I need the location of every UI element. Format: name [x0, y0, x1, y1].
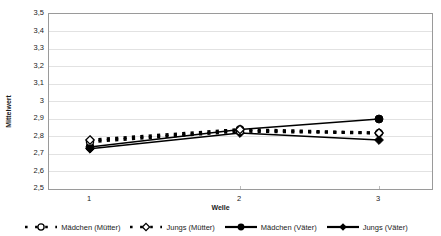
- plot-area: [48, 13, 433, 190]
- x-axis-tick-label: 1: [74, 194, 104, 203]
- chart-legend: Mädchen (Mütter)Jungs (Mütter)Mädchen (V…: [0, 219, 441, 235]
- legend-key: [326, 222, 360, 232]
- legend-item[interactable]: Mädchen (Väter): [224, 222, 326, 232]
- legend-item[interactable]: Mädchen (Mütter): [24, 222, 129, 232]
- y-axis-tick-label: 3: [10, 97, 44, 105]
- y-axis-tick-label: 3,3: [10, 44, 44, 52]
- y-axis-tick-label: 3,5: [10, 9, 44, 17]
- chart-container: Mittelwert 3,53,43,33,23,132,92,82,72,62…: [0, 0, 441, 236]
- legend-label: Jungs (Mütter): [166, 223, 214, 232]
- data-point-marker: [375, 115, 383, 123]
- legend-key: [129, 222, 163, 232]
- x-axis-tick-label: 2: [224, 194, 254, 203]
- series-2: [86, 125, 383, 144]
- series-line: [90, 133, 379, 149]
- legend-key: [24, 222, 58, 232]
- legend-item[interactable]: Jungs (Mütter): [129, 222, 223, 232]
- legend-item[interactable]: Jungs (Väter): [326, 222, 417, 232]
- x-axis-title: Welle: [0, 204, 441, 211]
- y-axis-tick-label: 2,7: [10, 149, 44, 157]
- y-axis-tick-label: 3,2: [10, 62, 44, 70]
- legend-label: Mädchen (Väter): [261, 223, 317, 232]
- x-axis-tick-label: 3: [363, 194, 393, 203]
- plot-svg: [49, 14, 432, 189]
- y-axis-tick-label: 2,5: [10, 184, 44, 192]
- legend-label: Jungs (Väter): [363, 223, 408, 232]
- legend-key: [224, 222, 258, 232]
- y-axis-tick-label: 2,9: [10, 114, 44, 122]
- legend-label: Mädchen (Mütter): [61, 223, 120, 232]
- y-axis-tick-label: 2,6: [10, 167, 44, 175]
- y-axis-tick-label: 3,4: [10, 27, 44, 35]
- y-axis-tick-labels: 3,53,43,33,23,132,92,82,72,62,5: [6, 0, 44, 190]
- y-axis-tick-label: 2,8: [10, 132, 44, 140]
- y-axis-tick-label: 3,1: [10, 79, 44, 87]
